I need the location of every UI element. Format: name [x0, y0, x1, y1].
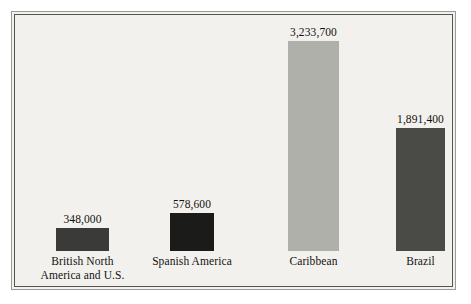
bar-value-label: 578,600 — [173, 199, 211, 211]
bar-rect — [396, 128, 445, 251]
bar-category-label: British North America and U.S. — [41, 255, 125, 282]
bar-category-label: Spanish America — [152, 255, 232, 269]
bar-category-label-line1: British North — [41, 255, 125, 269]
bar-rect — [56, 228, 109, 251]
bar-category-label-line1: Spanish America — [152, 255, 232, 269]
bar-rect — [170, 213, 214, 251]
bar-value-label: 348,000 — [63, 214, 101, 226]
bar-value-label: 3,233,700 — [290, 27, 337, 39]
bar-rect — [288, 41, 339, 251]
plot-area: 348,000 British North America and U.S. 5… — [12, 12, 455, 289]
bar-category-label-line1: Brazil — [406, 255, 435, 269]
chart-frame: 348,000 British North America and U.S. 5… — [11, 11, 456, 290]
bar-group-spanish-america: 578,600 Spanish America — [170, 199, 214, 252]
bar-category-label: Caribbean — [289, 255, 337, 269]
bar-group-british-north-america-and-us: 348,000 British North America and U.S. — [56, 214, 109, 252]
bar-value-label: 1,891,400 — [397, 114, 444, 126]
bar-group-caribbean: 3,233,700 Caribbean — [288, 27, 339, 252]
bar-category-label: Brazil — [406, 255, 435, 269]
bar-category-label-line2: America and U.S. — [41, 269, 125, 283]
bar-category-label-line1: Caribbean — [289, 255, 337, 269]
bar-group-brazil: 1,891,400 Brazil — [396, 114, 445, 252]
